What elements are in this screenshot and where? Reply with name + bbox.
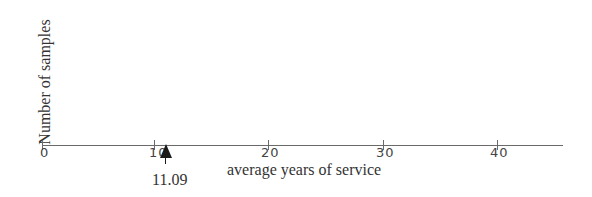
- x-tick-label-30: 30: [376, 145, 395, 160]
- mean-arrow-icon: [160, 144, 172, 158]
- x-axis-line: [42, 145, 563, 146]
- y-axis-label: Number of samples: [36, 19, 54, 144]
- x-tick-label-20: 20: [261, 145, 280, 160]
- mean-arrow-stem: [165, 150, 166, 164]
- x-axis-label: average years of service: [227, 161, 381, 179]
- x-tick-label-0: 0: [40, 145, 49, 160]
- x-tick-label-40: 40: [490, 145, 509, 160]
- mean-value-label: 11.09: [152, 171, 187, 189]
